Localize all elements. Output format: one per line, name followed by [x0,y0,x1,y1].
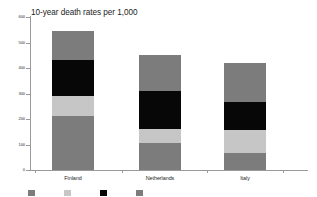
y-axis-tick [26,68,31,69]
y-axis-tick-label: 0 [1,168,25,172]
x-axis-line [30,170,308,171]
legend-item[interactable] [100,190,110,196]
legend-swatch-s3 [100,190,107,196]
y-axis-tick-label: 600 [1,15,25,19]
y-axis-tick [26,94,31,95]
bar-segment-s1[interactable] [224,153,266,170]
category-label-finland: Finland [33,175,113,181]
y-axis-tick-label: 500 [1,41,25,45]
bar-column[interactable] [224,63,266,170]
y-axis-tick [26,17,31,18]
y-axis-tick-label: 400 [1,66,25,70]
bar-segment-s3[interactable] [52,60,94,96]
x-axis-tick [283,170,284,173]
y-axis-labels: 0100200300400500600 [0,0,25,197]
bar-column[interactable] [52,31,94,170]
legend-swatch-s1 [28,190,35,196]
bar-segment-s1[interactable] [52,116,94,170]
legend-item[interactable] [64,190,74,196]
y-axis-tick [26,170,31,171]
legend-item[interactable] [28,190,38,196]
bar-segment-s2[interactable] [224,130,266,153]
bar-segment-s3[interactable] [224,102,266,130]
stacked-bar [139,55,181,170]
y-axis-tick [26,119,31,120]
category-label-italy: Italy [205,175,285,181]
legend-swatch-s4 [136,190,143,196]
bar-segment-s1[interactable] [139,143,181,170]
y-axis-tick-label: 300 [1,92,25,96]
chart-title: 10-year death rates per 1,000 [31,8,137,17]
stacked-bar [224,63,266,170]
legend-item[interactable] [136,190,146,196]
bar-segment-s2[interactable] [139,129,181,143]
x-axis-tick [207,170,208,173]
stacked-bar [52,31,94,170]
y-axis-tick-label: 100 [1,143,25,147]
bar-segment-s4[interactable] [224,63,266,103]
y-axis-tick [26,145,31,146]
chart-container: 10-year death rates per 1,000 0100200300… [0,0,317,197]
bar-segment-s4[interactable] [52,31,94,60]
x-axis-tick [35,170,36,173]
x-axis-tick [122,170,123,173]
y-axis-tick [26,43,31,44]
bar-segment-s3[interactable] [139,91,181,129]
legend-swatch-s2 [64,190,71,196]
bar-segment-s4[interactable] [139,55,181,91]
bar-column[interactable] [139,55,181,170]
category-label-netherlands: Netherlands [120,175,200,181]
y-axis-tick-label: 200 [1,117,25,121]
chart-legend [28,190,146,197]
bar-segment-s2[interactable] [52,96,94,116]
